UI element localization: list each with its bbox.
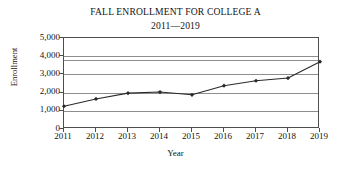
y-tick-label-2000: 2,000 (26, 87, 60, 96)
chart-subtitle: 2011—2019 (0, 20, 351, 31)
data-point-2011 (62, 104, 66, 108)
y-axis-title: Enrollment (9, 37, 19, 97)
data-point-2014 (158, 90, 162, 94)
data-point-2018 (286, 76, 290, 80)
y-tick-label-4000: 4,000 (26, 51, 60, 60)
data-point-2015 (190, 93, 194, 97)
data-point-2019 (318, 60, 322, 64)
data-point-2017 (254, 79, 258, 83)
y-tick-label-1000: 1,000 (26, 105, 60, 114)
data-point-2012 (94, 97, 98, 101)
x-tick-label-2019: 2019 (299, 131, 339, 141)
y-tick-label-5000: 5,000 (26, 33, 60, 42)
y-axis-tick-labels: 01,0002,0003,0004,0005,000 (22, 37, 60, 128)
chart-title: FALL ENROLLMENT FOR COLLEGE A (0, 6, 351, 17)
x-axis-tick-labels: 201120122013201420152016201720182019 (63, 131, 319, 143)
x-axis-title: Year (0, 148, 351, 158)
enrollment-line-series (64, 38, 320, 129)
chart-screenshot: FALL ENROLLMENT FOR COLLEGE A 2011—2019 … (0, 0, 351, 169)
data-point-2013 (126, 91, 130, 95)
plot-area (63, 37, 319, 128)
data-point-2016 (222, 84, 226, 88)
series-line (64, 62, 320, 107)
y-tick-label-3000: 3,000 (26, 69, 60, 78)
